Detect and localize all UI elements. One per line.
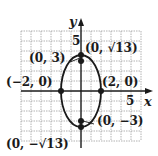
label-focus-bottom: (0, −3) (97, 114, 143, 128)
point-focus-top (78, 58, 84, 64)
y-axis-label: y (68, 14, 78, 29)
y-tick-5: 5 (72, 34, 80, 48)
point-left-covertex (58, 88, 64, 94)
x-axis-label: x (143, 94, 152, 109)
label-focus-top: (0, 3) (29, 51, 65, 65)
label-left-covertex: (−2, 0) (6, 75, 52, 89)
x-tick-5: 5 (126, 94, 134, 108)
point-bottom-vertex (78, 124, 84, 130)
point-top-vertex (78, 52, 84, 58)
ellipse-graph: x y 5 5 (0, √13) (0, 3) (0, −3) (0, −√13… (0, 0, 158, 156)
label-right-covertex: (2, 0) (102, 75, 138, 89)
label-bottom-vertex: (0, −√13) (6, 137, 69, 151)
point-focus-bottom (78, 118, 84, 124)
y-axis-arrow-icon (78, 18, 84, 26)
label-top-vertex: (0, √13) (85, 41, 138, 55)
